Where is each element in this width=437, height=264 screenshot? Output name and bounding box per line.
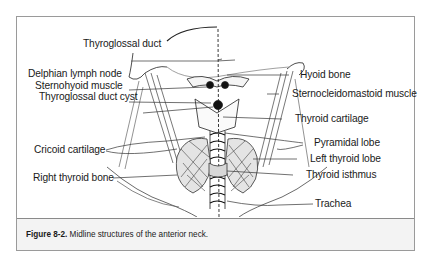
label-pyramidal-lobe: Pyramidal lobe [314, 137, 380, 149]
figure-caption-text: Midline structures of the anterior neck. [67, 228, 208, 239]
figure-caption-bar: Figure 8-2. Midline structures of the an… [17, 218, 414, 250]
label-thyroid-isthmus: Thyroid isthmus [306, 169, 376, 181]
label-thyroglossal-duct: Thyroglossal duct [83, 38, 161, 50]
label-hyoid-bone: Hyoid bone [300, 69, 351, 81]
label-right-thyroid-bone: Right thyroid bone [33, 172, 114, 184]
anatomical-illustration: Thyroglossal duct Delphian lymph node St… [17, 17, 414, 217]
figure-frame: Thyroglossal duct Delphian lymph node St… [16, 16, 415, 251]
figure-number: Figure 8-2. [26, 228, 67, 239]
label-thyroid-cartilage: Thyroid cartilage [295, 113, 369, 125]
label-delphian-lymph-node: Delphian lymph node [28, 68, 122, 80]
label-sternocleidomastoid-muscle: Sternocleidomastoid muscle [292, 88, 417, 100]
label-thyroglossal-duct-cyst: Thyroglossal duct cyst [39, 91, 138, 103]
label-left-thyroid-lobe: Left thyroid lobe [310, 153, 381, 165]
label-trachea: Trachea [315, 198, 351, 210]
figure-caption: Figure 8-2. Midline structures of the an… [26, 228, 208, 239]
label-cricoid-cartilage: Cricoid cartilage [34, 144, 105, 156]
